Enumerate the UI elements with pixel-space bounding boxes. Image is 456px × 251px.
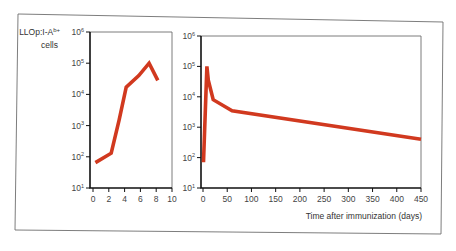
y-tick-label: 105 (182, 61, 195, 72)
x-tick-label: 100 (244, 194, 258, 204)
y-tick-label: 105 (71, 58, 84, 69)
x-tick-label: 0 (91, 194, 96, 204)
y-axis-title: LLOp:I-Ab+ (19, 27, 60, 37)
y-tick-label: 102 (71, 151, 84, 162)
y-tick-label: 103 (182, 122, 195, 133)
x-tick-label: 200 (293, 194, 307, 204)
x-tick-label: 350 (365, 194, 379, 204)
figure: LLOp:I-Ab+ cells 10110210310410510602468… (0, 0, 456, 251)
x-tick-label: 150 (269, 194, 283, 204)
left-chart: 1011021031041051060246810 (71, 27, 177, 205)
x-tick-label: 4 (122, 194, 127, 204)
y-tick-label: 103 (71, 120, 84, 131)
x-tick-label: 450 (414, 194, 428, 204)
y-tick-label: 104 (182, 91, 195, 102)
y-tick-label: 106 (71, 27, 84, 38)
y-tick-label: 102 (182, 152, 195, 163)
y-tick-label: 106 (182, 31, 195, 42)
x-tick-label: 6 (138, 194, 143, 204)
x-tick-label: 250 (317, 194, 331, 204)
x-tick-label: 300 (341, 194, 355, 204)
y-tick-label: 101 (182, 183, 195, 194)
data-line (204, 66, 422, 162)
x-tick-label: 50 (222, 194, 232, 204)
x-tick-label: 8 (154, 194, 159, 204)
y-tick-label: 101 (71, 183, 84, 194)
right-chart: 1011021031041051060501001502002503003504… (182, 31, 428, 205)
x-tick-label: 10 (167, 194, 177, 204)
data-line (95, 63, 157, 162)
y-tick-label: 104 (71, 89, 84, 100)
x-axis-title: Time after immunization (days) (306, 211, 423, 221)
x-tick-label: 400 (390, 194, 404, 204)
x-tick-label: 0 (201, 194, 206, 204)
axes (90, 32, 172, 188)
y-axis-title-line2: cells (41, 40, 58, 50)
x-tick-label: 2 (106, 194, 111, 204)
plot-frame (90, 32, 172, 188)
